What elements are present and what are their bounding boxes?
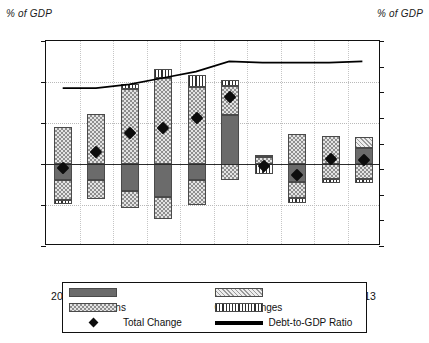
other-changes-swatch-icon [215,303,263,312]
bar-segment-transactions [54,127,72,164]
gridline [314,41,315,244]
bar-segment-gdp [188,164,206,180]
y2-tick-mark [379,67,384,68]
gridline [281,41,282,244]
gridline [180,41,181,244]
transactions-swatch-icon [69,303,117,312]
gridline [348,41,349,244]
diamond-marker-icon [69,319,117,326]
plot-inner [46,41,379,244]
bar-segment-transactions [288,134,306,164]
legend-item-inflation: Inflation [215,287,361,298]
y2-tick-mark [379,195,384,196]
gridline [147,41,148,244]
bar-segment-other [322,179,340,183]
legend-label-debt-ratio: Debt-to-GDP Ratio [269,317,353,328]
bar-segment-transactions [87,180,105,199]
bar-segment-other [188,75,206,87]
bar-segment-gdp [87,164,105,180]
legend-label-total-change: Total Change [123,317,182,328]
bar-segment-other [288,198,306,204]
left-axis-title: % of GDP [6,8,52,19]
legend-item-other-changes: Other Changes [215,302,361,313]
y2-tick-mark [379,169,384,170]
y2-tick-mark [379,118,384,119]
legend-item-debt-ratio: Debt-to-GDP Ratio [215,317,361,328]
gridline [113,41,114,244]
y-tick-mark [41,82,46,83]
y-tick-mark [41,123,46,124]
y2-tick-mark [379,41,384,42]
bar-segment-other [154,69,172,78]
y2-tick-mark [379,220,384,221]
right-axis-title: % of GDP [377,8,423,19]
line-swatch-icon [215,321,263,325]
y-tick-mark [41,164,46,165]
y-tick-mark [41,41,46,42]
bar-segment-transactions [288,182,306,198]
bar-segment-transactions [188,87,206,164]
bar-segment-transactions [54,180,72,200]
bar-segment-gdp [121,164,139,191]
gridline [214,41,215,244]
y2-tick-mark [379,246,384,247]
bar-segment-transactions [221,164,239,180]
gdp-swatch-icon [69,288,117,297]
bar-segment-transactions [355,164,373,179]
bar-segment-transactions [121,191,139,208]
chart-legend: GDP Inflation Transactions Other Changes… [62,282,367,333]
chart-root: % of GDP % of GDP −10−5051015 0204060801… [0,0,429,343]
y-tick-mark [41,246,46,247]
legend-item-gdp: GDP [69,287,215,298]
bar-segment-transactions [154,197,172,219]
gridline [80,41,81,244]
y2-tick-mark [379,144,384,145]
y2-tick-mark [379,92,384,93]
bar-segment-transactions [322,164,340,179]
bar-segment-gdp [154,164,172,197]
inflation-swatch-icon [215,288,263,297]
y-tick-mark [41,205,46,206]
bar-segment-other [221,80,239,87]
bar-segment-inflation [355,137,373,148]
bar-segment-other [355,179,373,183]
legend-item-total-change: Total Change [69,317,215,328]
gridline [46,82,379,83]
bar-segment-transactions [188,180,206,205]
bar-segment-other [54,200,72,204]
plot-area: −10−5051015 020406080100120140160 200420… [45,40,380,245]
legend-item-transactions: Transactions [69,302,215,313]
gridline [46,205,379,206]
gridline [247,41,248,244]
